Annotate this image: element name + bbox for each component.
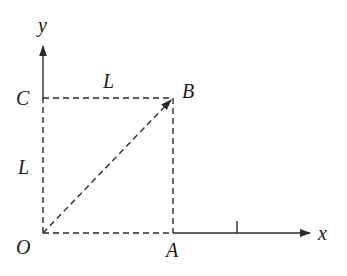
x-axis-label: x [317,222,327,244]
dimension-label-top: L [102,70,114,92]
point-label-A: A [164,239,179,261]
point-label-B: B [182,80,194,102]
dimension-label-left: L [17,156,29,178]
point-label-O: O [16,236,30,258]
y-axis-label: y [36,14,47,37]
segment-OB-diagonal [43,100,171,233]
diagram-canvas: y x C B O A L L [0,0,347,276]
point-label-C: C [16,87,30,109]
